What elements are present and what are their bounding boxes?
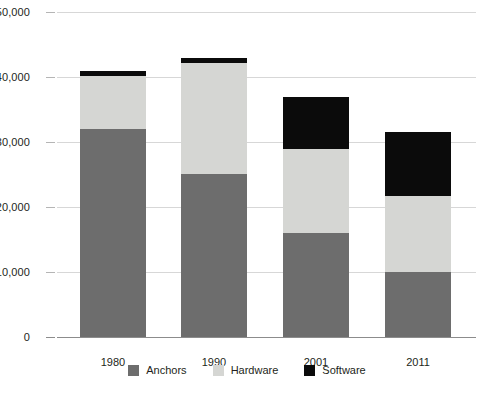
bar-group-2001 (283, 12, 349, 337)
bar-group-1990 (181, 12, 247, 337)
y-axis-label-0: 0 (0, 332, 30, 343)
legend-label-software: Software (322, 365, 365, 376)
bar-group-1980 (80, 12, 146, 337)
stacked-bar[interactable] (283, 97, 349, 338)
bar-segment-software[interactable] (283, 97, 349, 149)
y-axis-label-40000: 40,000 (0, 72, 30, 83)
tick-stub-20000 (46, 207, 55, 208)
stacked-bar[interactable] (80, 71, 146, 338)
stacked-bar[interactable] (181, 58, 247, 338)
bar-segment-anchors[interactable] (80, 129, 146, 337)
bar-segment-hardware[interactable] (283, 149, 349, 234)
tick-stub-50000 (46, 12, 55, 13)
bar-segment-hardware[interactable] (181, 63, 247, 174)
tick-stub-10000 (46, 272, 55, 273)
y-axis-label-30000: 30,000 (0, 137, 30, 148)
legend-swatch-hardware (213, 365, 224, 376)
x-axis-line: 0 (57, 337, 476, 338)
y-axis-label-50000: 50,000 (0, 7, 30, 18)
stacked-bar-chart: 50,000 40,000 30,000 20,000 10,000 0 (0, 0, 494, 394)
stacked-bar[interactable] (385, 132, 451, 337)
legend-swatch-anchors (128, 365, 139, 376)
bar-segment-anchors[interactable] (283, 233, 349, 337)
legend-label-anchors: Anchors (146, 365, 186, 376)
chart-legend: Anchors Hardware Software (0, 365, 494, 376)
bar-segment-hardware[interactable] (385, 196, 451, 272)
y-axis-label-10000: 10,000 (0, 267, 30, 278)
plot-area: 50,000 40,000 30,000 20,000 10,000 0 (57, 12, 476, 337)
tick-stub-30000 (46, 142, 55, 143)
bar-segment-software[interactable] (385, 132, 451, 196)
bar-segment-hardware[interactable] (80, 76, 146, 129)
tick-stub-0 (46, 337, 55, 338)
bar-segment-anchors[interactable] (385, 272, 451, 337)
y-axis-label-20000: 20,000 (0, 202, 30, 213)
legend-item-hardware[interactable]: Hardware (213, 365, 279, 376)
legend-item-anchors[interactable]: Anchors (128, 365, 186, 376)
legend-item-software[interactable]: Software (304, 365, 365, 376)
legend-swatch-software (304, 365, 315, 376)
bar-segment-anchors[interactable] (181, 174, 247, 337)
bar-group-2011 (385, 12, 451, 337)
tick-stub-40000 (46, 77, 55, 78)
legend-label-hardware: Hardware (231, 365, 279, 376)
